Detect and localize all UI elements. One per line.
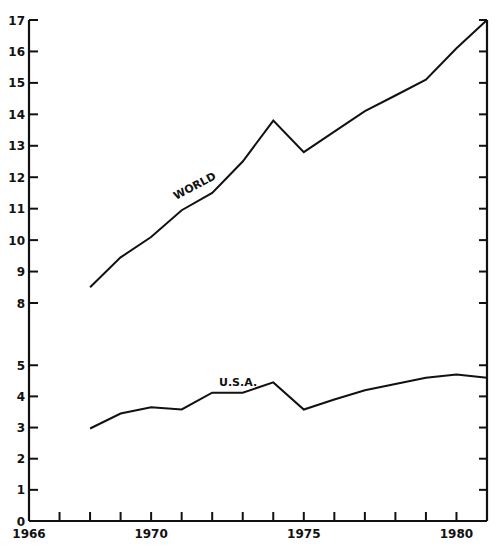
y-tick-label: 16 bbox=[8, 45, 25, 59]
series-line-world bbox=[90, 20, 487, 287]
y-tick-label: 14 bbox=[8, 108, 25, 122]
x-tick-label: 1966 bbox=[12, 527, 45, 541]
series-group bbox=[90, 20, 487, 429]
x-tick-label: 1970 bbox=[134, 527, 167, 541]
y-tick-label: 3 bbox=[17, 421, 25, 435]
y-tick-label: 5 bbox=[17, 359, 25, 373]
y-tick-label: 15 bbox=[8, 76, 25, 90]
line-chart: 0123458910111213141516171966197019751980… bbox=[0, 0, 496, 547]
y-tick-label: 8 bbox=[17, 297, 25, 311]
y-tick-label: 9 bbox=[17, 265, 25, 279]
y-tick-label: 4 bbox=[17, 390, 25, 404]
y-tick-label: 11 bbox=[8, 202, 25, 216]
ticks: 0123458910111213141516171966197019751980 bbox=[8, 14, 487, 542]
x-tick-label: 1975 bbox=[287, 527, 320, 541]
axes bbox=[29, 20, 487, 521]
x-tick-label: 1980 bbox=[440, 527, 473, 541]
series-label-world: WORLD bbox=[171, 170, 218, 203]
series-label-usa: U.S.A. bbox=[219, 376, 257, 389]
y-tick-label: 12 bbox=[8, 171, 25, 185]
series-line-usa bbox=[90, 375, 487, 429]
series-labels: WORLDU.S.A. bbox=[171, 170, 257, 389]
y-tick-label: 10 bbox=[8, 234, 25, 248]
y-tick-label: 13 bbox=[8, 139, 25, 153]
y-tick-label: 2 bbox=[17, 452, 25, 466]
y-tick-label: 17 bbox=[8, 14, 25, 28]
y-tick-label: 1 bbox=[17, 483, 25, 497]
